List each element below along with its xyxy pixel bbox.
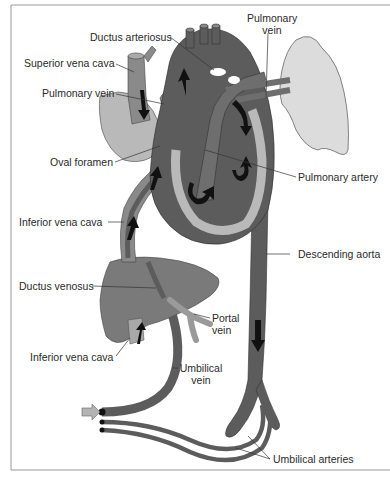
liver-shape xyxy=(100,257,219,342)
label-portal-vein: Portal vein xyxy=(212,312,239,336)
label-pulmonary-artery: Pulmonary artery xyxy=(298,171,378,183)
label-superior-vena-cava: Superior vena cava xyxy=(24,57,114,69)
lung-shape xyxy=(280,36,349,154)
label-umbilical-vein: Umbilical vein xyxy=(176,362,226,386)
label-oval-foramen: Oval foramen xyxy=(50,156,113,168)
label-inferior-vena-cava-upper: Inferior vena cava xyxy=(19,216,102,228)
fetal-circulation-illustration xyxy=(0,0,390,477)
label-descending-aorta: Descending aorta xyxy=(298,248,380,260)
label-pulmonary-vein-top: Pulmonary vein xyxy=(247,12,297,36)
diagram-frame: Ductus arteriosus Pulmonary vein Superio… xyxy=(0,0,390,477)
aorta-right-branch xyxy=(256,380,280,430)
label-ductus-arteriosus: Ductus arteriosus xyxy=(90,31,172,43)
label-ductus-venosus: Ductus venosus xyxy=(19,280,94,292)
blood-inlet-arrow-icon xyxy=(82,404,100,420)
label-pulmonary-vein-left: Pulmonary vein xyxy=(42,87,114,99)
label-umbilical-arteries: Umbilical arteries xyxy=(273,453,354,465)
label-inferior-vena-cava-lower: Inferior vena cava xyxy=(30,351,113,363)
